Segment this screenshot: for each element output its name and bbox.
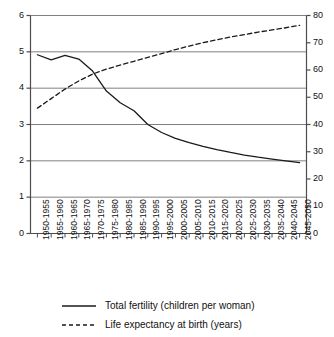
x-axis-tick-label: 1990-1995 — [151, 199, 161, 240]
x-axis-tick-label: 1955-1960 — [55, 199, 65, 240]
x-axis-tick-label: 2025-2030 — [248, 199, 258, 240]
legend-dashed-line-icon — [62, 320, 96, 330]
legend-item-life-expectancy: Life expectancy at birth (years) — [0, 315, 334, 334]
x-axis-tick-label: 1970-1975 — [96, 199, 106, 240]
data-series-layer — [37, 25, 299, 162]
legend-label-life-expectancy: Life expectancy at birth (years) — [105, 319, 242, 330]
y-axis-right-tick-label: 60 — [313, 64, 331, 74]
x-axis-tick-label: 2020-2025 — [234, 199, 244, 240]
y-axis-left-tick-label: 3 — [8, 119, 24, 129]
x-axis-tick-label: 1950-1955 — [41, 199, 51, 240]
legend-label-total-fertility: Total fertility (children per woman) — [105, 300, 255, 311]
y-axis-right-tick-label: 80 — [313, 10, 331, 20]
y-axis-right-tick-label: 30 — [313, 146, 331, 156]
y-axis-right-tick-label: 0 — [313, 228, 331, 238]
gridlines — [31, 16, 307, 198]
y-axis-left-tick-label: 0 — [8, 228, 24, 238]
legend-solid-line-icon — [62, 301, 96, 311]
series-line-total-fertility — [37, 55, 299, 163]
y-axis-left-tick-label: 4 — [8, 82, 24, 92]
series-line-life-expectancy — [37, 25, 299, 108]
x-axis-tick-label: 1960-1965 — [69, 199, 79, 240]
x-axis-tick-label: 2045-2050 — [303, 199, 313, 240]
y-axis-left-tick-label: 2 — [8, 155, 24, 165]
y-axis-right-tick-label: 50 — [313, 91, 331, 101]
x-axis-tick-label: 1985-1990 — [138, 199, 148, 240]
x-axis-tick-label: 2040-2045 — [289, 199, 299, 240]
y-axis-right-tick-label: 20 — [313, 173, 331, 183]
x-axis-tick-label: 2005-2010 — [193, 199, 203, 240]
x-axis-tick-label: 1965-1970 — [82, 199, 92, 240]
x-axis-tick-label: 1995-2000 — [165, 199, 175, 240]
x-axis-tick-label: 2000-2005 — [179, 199, 189, 240]
chart-container: 0123456 01020304050607080 1950-19551955-… — [0, 0, 334, 337]
x-axis-tick-label: 2035-2040 — [276, 199, 286, 240]
x-axis-tick-label: 2010-2015 — [207, 199, 217, 240]
x-axis-tick-label: 2030-2035 — [262, 199, 272, 240]
y-axis-left-tick-label: 1 — [8, 191, 24, 201]
chart-plot-area — [0, 0, 334, 337]
chart-legend: Total fertility (children per woman) Lif… — [0, 296, 334, 334]
x-axis-tick-label: 2015-2020 — [220, 199, 230, 240]
y-axis-right-tick-label: 10 — [313, 200, 331, 210]
y-axis-left-tick-label: 6 — [8, 10, 24, 20]
x-axis-tick-label: 1975-1980 — [110, 199, 120, 240]
legend-item-total-fertility: Total fertility (children per woman) — [0, 296, 334, 315]
y-axis-right-tick-label: 40 — [313, 119, 331, 129]
y-axis-right-tick-label: 70 — [313, 37, 331, 47]
x-axis-tick-label: 1980-1985 — [124, 199, 134, 240]
y-axis-left-tick-label: 5 — [8, 46, 24, 56]
